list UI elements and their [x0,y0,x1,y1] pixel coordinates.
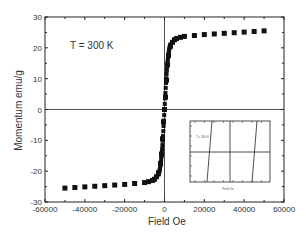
x-axis-label: Field Oe [148,216,186,227]
data-point [252,29,257,34]
data-point [92,184,97,189]
y-tick-label: -20 [30,167,42,176]
data-point [232,30,237,35]
x-tick-label: 0 [162,205,167,214]
data-point [102,183,107,188]
x-tick-label: -20000 [112,205,137,214]
data-point [182,34,187,39]
magnetization-chart: -60000-40000-200000200004000060000302010… [0,0,306,243]
y-tick-label: 10 [33,75,42,84]
y-tick-label: 0 [38,106,43,115]
y-axis-label: Momentum emu/g [13,70,24,151]
data-point [82,184,87,189]
y-tick-label: 30 [33,13,42,22]
annotation-temperature: T = 300 K [70,40,113,51]
y-tick-label: -10 [30,136,42,145]
data-point [242,30,247,35]
data-point [72,185,77,190]
y-tick-label: 20 [33,44,42,53]
data-point [222,31,227,36]
y-tick-label: -30 [30,198,42,207]
x-tick-label: 40000 [233,205,256,214]
svg-text:Field Oe: Field Oe [222,187,234,191]
data-point [202,32,207,37]
data-point [122,182,127,187]
data-point [262,28,267,33]
svg-text:T = 300 K: T = 300 K [196,135,209,139]
x-tick-label: -40000 [72,205,97,214]
x-tick-label: 60000 [273,205,296,214]
data-point [132,181,137,186]
data-point [62,186,67,191]
x-tick-label: 20000 [193,205,216,214]
data-point [112,183,117,188]
inset-chart: T = 300 KField Oe [190,121,270,191]
data-point [212,31,217,36]
data-point [192,33,197,38]
